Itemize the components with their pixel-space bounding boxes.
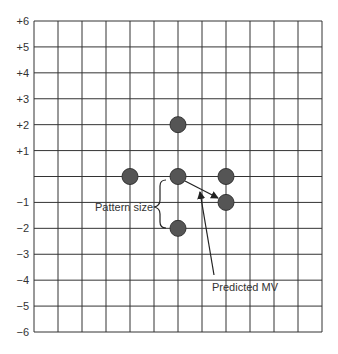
y-axis-label: −6: [16, 326, 29, 338]
search-point: [218, 169, 234, 185]
predicted-mv-label: Predicted MV: [212, 281, 279, 293]
y-axis-label: −3: [16, 248, 29, 260]
y-axis-label: −4: [16, 274, 29, 286]
search-point: [170, 117, 186, 133]
y-axis-label: −5: [16, 300, 29, 312]
y-axis-label: +6: [16, 15, 29, 27]
y-axis-label: +3: [16, 93, 29, 105]
search-point: [170, 220, 186, 236]
y-axis-label: +1: [16, 145, 29, 157]
pattern-size-brace: [154, 180, 166, 228]
y-axis-label: +4: [16, 67, 29, 79]
search-point: [170, 169, 186, 185]
y-axis-label: +2: [16, 119, 29, 131]
y-axis-labels: +6+5+4+3+2+1−1−2−3−4−5−6: [16, 15, 29, 338]
pattern-size-label: Pattern size: [95, 201, 153, 213]
search-point: [122, 169, 138, 185]
search-pattern-diagram: +6+5+4+3+2+1−1−2−3−4−5−6 Pattern size Pr…: [0, 0, 338, 354]
y-axis-label: +5: [16, 41, 29, 53]
search-point: [218, 194, 234, 210]
y-axis-label: −1: [16, 196, 29, 208]
diagram-canvas: +6+5+4+3+2+1−1−2−3−4−5−6 Pattern size Pr…: [0, 0, 338, 354]
y-axis-label: −2: [16, 222, 29, 234]
